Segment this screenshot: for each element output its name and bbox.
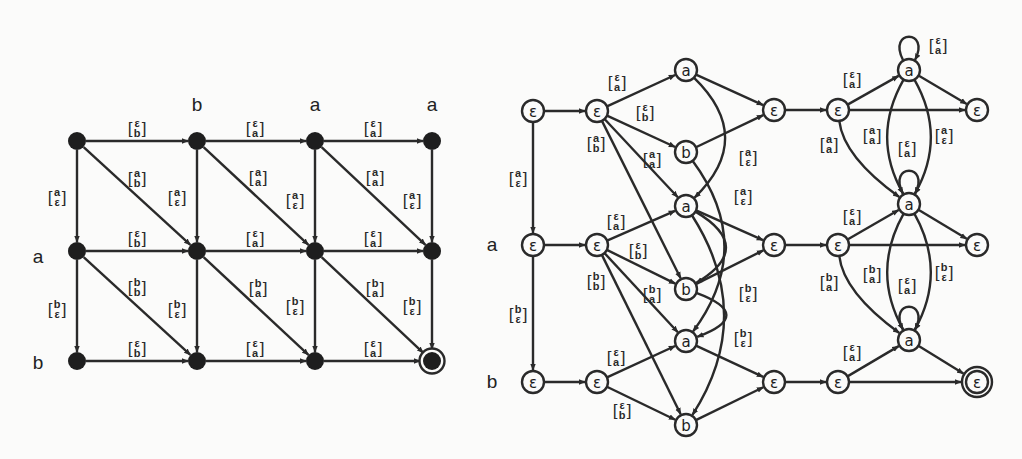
state-symbol: ε bbox=[973, 374, 981, 392]
edge-label: []bε bbox=[935, 261, 954, 283]
label-bottom-symbol: b bbox=[593, 280, 600, 292]
bracket-open: [ bbox=[509, 169, 514, 188]
bracket-close: ] bbox=[643, 241, 648, 260]
label-bottom-symbol: ε bbox=[515, 177, 521, 189]
bracket-open: [ bbox=[739, 148, 744, 167]
label-bottom-symbol: a bbox=[935, 44, 942, 56]
state-symbol: a bbox=[681, 62, 690, 80]
label-bottom-symbol: ε bbox=[409, 305, 415, 317]
bracket-close: ] bbox=[657, 150, 662, 169]
edge-M3-M4 bbox=[696, 293, 726, 337]
label-bottom-symbol: b bbox=[593, 142, 600, 154]
label-bottom-symbol: a bbox=[372, 176, 379, 188]
label-bottom-symbol: a bbox=[370, 237, 377, 249]
state-symbol: a bbox=[904, 332, 913, 350]
final-state-node bbox=[423, 352, 441, 370]
state-symbol: ε bbox=[593, 374, 601, 392]
bracket-open: [ bbox=[366, 279, 371, 298]
edge-F2-A2 bbox=[847, 346, 898, 376]
edge-M1-E0 bbox=[696, 115, 763, 147]
state-symbol: ε bbox=[529, 374, 537, 392]
edge-label: []bε bbox=[286, 295, 305, 317]
symbol-axis-label: b bbox=[487, 371, 498, 392]
bracket-close: ] bbox=[601, 272, 606, 291]
state-node bbox=[306, 132, 324, 150]
state-node bbox=[423, 242, 441, 260]
edge-label: []ab bbox=[587, 132, 606, 154]
edge-label: []εa bbox=[246, 227, 265, 249]
bracket-close: ] bbox=[627, 401, 632, 420]
bracket-close: ] bbox=[877, 126, 882, 145]
edge-label: []aε bbox=[168, 186, 187, 208]
bracket-open: [ bbox=[863, 265, 868, 284]
bracket-open: [ bbox=[509, 305, 514, 324]
bracket-close: ] bbox=[142, 229, 147, 248]
bracket-open: [ bbox=[734, 329, 739, 348]
edge-label: []aε bbox=[739, 146, 758, 168]
state-node bbox=[188, 132, 206, 150]
figure-canvas: []εb[]εa[]εa[]εb[]εa[]εa[]εb[]εa[]εa[]aε… bbox=[0, 0, 1022, 459]
edge-label: []aε bbox=[286, 189, 305, 211]
label-bottom-symbol: ε bbox=[515, 313, 521, 325]
symbol-axis-label: b bbox=[192, 94, 203, 115]
label-bottom-symbol: a bbox=[904, 147, 911, 159]
bracket-close: ] bbox=[300, 191, 305, 210]
bracket-open: [ bbox=[364, 119, 369, 138]
bracket-open: [ bbox=[820, 135, 825, 154]
label-bottom-symbol: b bbox=[134, 347, 141, 359]
self-loop-A0 bbox=[899, 37, 918, 60]
state-symbol: ε bbox=[529, 237, 537, 255]
state-node bbox=[188, 242, 206, 260]
state-symbol: ε bbox=[834, 237, 842, 255]
left-edge-labels: []εb[]εa[]εa[]εb[]εa[]εa[]εb[]εa[]εa[]aε… bbox=[48, 117, 422, 359]
state-symbol: b bbox=[681, 144, 691, 162]
self-loop-A2 bbox=[899, 307, 918, 330]
state-symbol: b bbox=[681, 281, 691, 299]
bracket-close: ] bbox=[949, 126, 954, 145]
bracket-close: ] bbox=[263, 279, 268, 298]
edge-label: []bε bbox=[48, 298, 67, 320]
bracket-close: ] bbox=[943, 36, 948, 55]
edge-label: []εa bbox=[608, 71, 627, 93]
state-node bbox=[423, 132, 441, 150]
state-symbol: ε bbox=[770, 102, 778, 120]
bracket-close: ] bbox=[378, 339, 383, 358]
edge-label: []εb bbox=[629, 239, 648, 261]
edge-label: []εb bbox=[128, 227, 147, 249]
bracket-open: [ bbox=[607, 212, 612, 231]
bracket-close: ] bbox=[857, 343, 862, 362]
state-node bbox=[188, 352, 206, 370]
state-node bbox=[68, 242, 86, 260]
edge-label: []aa bbox=[366, 166, 385, 188]
bracket-open: [ bbox=[898, 276, 903, 295]
bracket-close: ] bbox=[142, 278, 147, 297]
label-bottom-symbol: b bbox=[642, 111, 649, 123]
edge-label: []aa bbox=[249, 166, 268, 188]
bracket-close: ] bbox=[380, 279, 385, 298]
bracket-close: ] bbox=[523, 169, 528, 188]
bracket-open: [ bbox=[898, 139, 903, 158]
bracket-close: ] bbox=[142, 169, 147, 188]
bracket-close: ] bbox=[62, 300, 67, 319]
bracket-open: [ bbox=[48, 188, 53, 207]
state-symbol: a bbox=[904, 196, 913, 214]
state-symbol: ε bbox=[834, 374, 842, 392]
bracket-open: [ bbox=[587, 272, 592, 291]
bracket-open: [ bbox=[929, 36, 934, 55]
bracket-close: ] bbox=[142, 339, 147, 358]
label-bottom-symbol: ε bbox=[740, 337, 746, 349]
edge-label: []εa bbox=[364, 337, 383, 359]
bracket-close: ] bbox=[417, 297, 422, 316]
right-automaton-graph: []aε[]bε[]εa[]εb[]aa[]ab[]εa[]εb[]ba[]bb… bbox=[487, 34, 992, 436]
bracket-open: [ bbox=[246, 339, 251, 358]
edge-M0-M2 bbox=[694, 78, 725, 198]
label-bottom-symbol: b bbox=[134, 127, 141, 139]
bracket-open: [ bbox=[364, 229, 369, 248]
label-bottom-symbol: a bbox=[614, 81, 621, 93]
bracket-close: ] bbox=[622, 73, 627, 92]
edge-label: []bε bbox=[168, 298, 187, 320]
bracket-open: [ bbox=[820, 273, 825, 292]
bracket-close: ] bbox=[62, 188, 67, 207]
label-bottom-symbol: a bbox=[826, 143, 833, 155]
bracket-open: [ bbox=[403, 297, 408, 316]
